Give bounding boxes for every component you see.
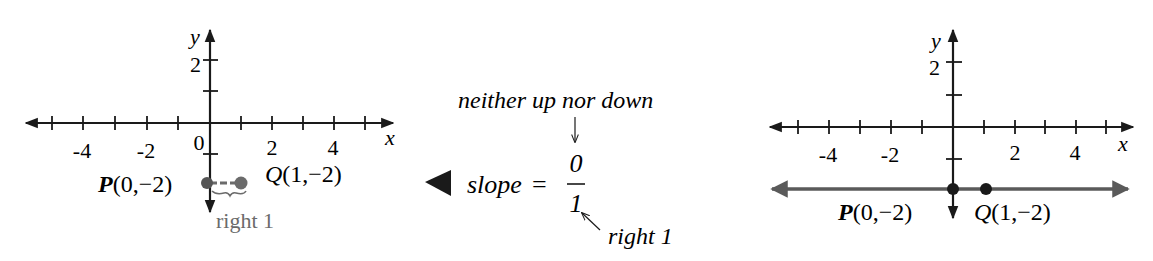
right-x-tick-label: 4 (1070, 140, 1081, 165)
point-q-coords: (1,−2) (282, 161, 342, 187)
left-x-axis-label: x (384, 125, 395, 150)
top-note: neither up nor down (458, 87, 653, 113)
slope-diagram: -4 -2 0 2 4 x y 2 P(0,−2) Q(1,−2) right … (0, 0, 1153, 261)
right-point-p-label: P(0,−2) (837, 199, 912, 225)
right-y-tick-label: 2 (929, 55, 940, 80)
left-x-tick-label: 0 (194, 130, 205, 155)
right-x-tick-label: -4 (819, 142, 837, 167)
left-x-tick-label: 4 (328, 135, 339, 160)
right-point-q-label: Q(1,−2) (974, 199, 1051, 225)
point-p-name: P (837, 199, 853, 225)
right-x-tick-label: -2 (881, 142, 899, 167)
right-point-p (947, 183, 959, 195)
left-point-p-label: P(0,−2) (97, 171, 172, 197)
bottom-note: right 1 (608, 223, 673, 249)
equals-sign: = (532, 170, 547, 199)
left-point-p (201, 177, 213, 189)
right-graph: -4 -2 2 4 x y 2 P(0,−2) Q(1,−2) (770, 28, 1133, 225)
left-triangle-icon (425, 170, 451, 196)
slope-denominator: 1 (570, 189, 583, 218)
left-y-axis-label: y (188, 24, 200, 49)
slope-numerator: 0 (570, 149, 583, 178)
slope-word: slope (467, 170, 522, 199)
slope-explanation: neither up nor down slope = 0 1 right 1 (425, 87, 673, 249)
point-q-name: Q (974, 199, 991, 225)
left-point-q-label: Q(1,−2) (265, 161, 342, 187)
left-brace (212, 191, 246, 196)
left-x-tick-label: 2 (267, 135, 278, 160)
left-x-tick-label: -2 (137, 138, 155, 163)
right-x-tick-label: 2 (1010, 140, 1021, 165)
left-run-annotation: right 1 (216, 208, 274, 233)
point-p-name: P (97, 171, 113, 197)
right-x-axis-label: x (1117, 131, 1128, 156)
point-p-coords: (0,−2) (853, 199, 913, 225)
right-y-axis-label: y (929, 28, 941, 53)
right-point-q (980, 183, 992, 195)
left-graph: -4 -2 0 2 4 x y 2 P(0,−2) Q(1,−2) right … (26, 24, 395, 233)
point-p-coords: (0,−2) (113, 171, 173, 197)
diag-arrow (582, 213, 600, 230)
point-q-name: Q (265, 161, 282, 187)
left-y-tick-label: 2 (190, 52, 201, 77)
left-point-q (235, 177, 248, 190)
left-x-tick-label: -4 (73, 138, 91, 163)
point-q-coords: (1,−2) (991, 199, 1051, 225)
